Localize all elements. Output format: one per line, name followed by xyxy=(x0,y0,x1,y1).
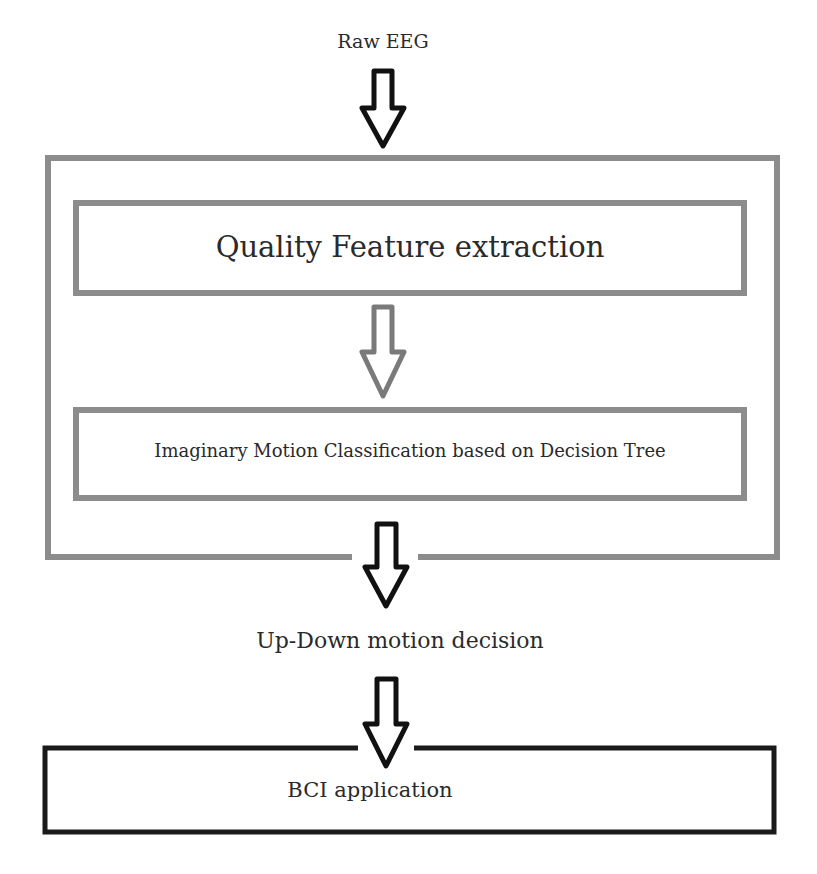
arrow-down-icon xyxy=(365,679,407,766)
arrow-down-icon xyxy=(362,307,404,396)
raw-eeg-label: Raw EEG xyxy=(283,30,483,52)
arrow-down-icon xyxy=(365,524,407,606)
classification-label: Imaginary Motion Classification based on… xyxy=(76,440,744,461)
arrow-down-icon xyxy=(362,71,404,146)
feature-extraction-label: Quality Feature extraction xyxy=(76,230,744,264)
diagram-canvas xyxy=(0,0,817,874)
up-down-decision-label: Up-Down motion decision xyxy=(200,628,600,653)
bci-application-label: BCI application xyxy=(245,778,495,802)
